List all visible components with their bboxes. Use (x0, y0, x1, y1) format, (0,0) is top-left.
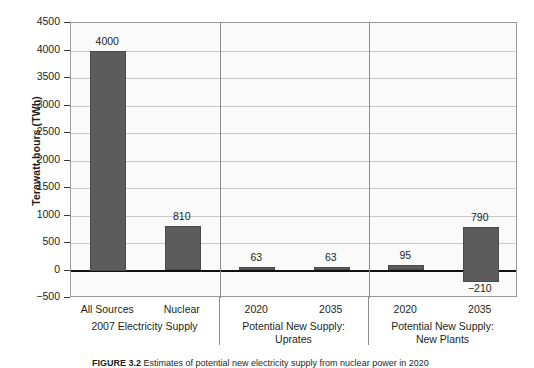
y-tick-label: −500 (18, 290, 60, 302)
bar-value-label: 63 (216, 251, 296, 263)
y-tick-label: 0 (18, 263, 60, 275)
group-label-line: 2007 Electricity Supply (70, 320, 220, 333)
gridline (71, 51, 516, 52)
y-tick-label: 3500 (18, 70, 60, 82)
y-tick-label: 4500 (18, 15, 60, 27)
bar (388, 265, 424, 270)
bar-value-label: 4000 (67, 35, 147, 47)
bar-value-label: 63 (291, 251, 371, 263)
bar (90, 51, 126, 271)
group-label-line: Uprates (219, 333, 369, 346)
figure-caption: FIGURE 3.2 Estimates of potential new el… (92, 357, 512, 368)
x-tick-label: 2035 (430, 303, 530, 315)
y-tick-label: 4000 (18, 43, 60, 55)
group-label: 2007 Electricity Supply (70, 320, 220, 333)
bar-value-label-negative: −210 (440, 282, 520, 294)
bar (239, 267, 275, 270)
bar-value-label: 790 (440, 211, 520, 223)
y-tick-label: 500 (18, 235, 60, 247)
group-divider-tick (219, 297, 220, 345)
group-label: Potential New Supply:Uprates (219, 320, 369, 346)
y-tick-label: 2000 (18, 153, 60, 165)
gridline (71, 188, 516, 189)
group-label-line: Potential New Supply: (219, 320, 369, 333)
group-label-line: New Plants (368, 333, 518, 346)
group-divider-tick (368, 297, 369, 345)
group-label-line: Potential New Supply: (368, 320, 518, 333)
gridline (71, 161, 516, 162)
gridline (71, 106, 516, 107)
figure-container: Terawatt-hours (TWh) 4500400035003000250… (0, 0, 534, 368)
y-tick-label: 1500 (18, 180, 60, 192)
y-tick-label: 2500 (18, 125, 60, 137)
caption-text: Estimates of potential new electricity s… (144, 358, 429, 368)
caption-label: FIGURE 3.2 (92, 358, 141, 368)
y-tick-label: 1000 (18, 208, 60, 220)
gridline (71, 243, 516, 244)
bar-value-label: 810 (142, 210, 222, 222)
bar (314, 267, 350, 270)
zero-line (71, 270, 516, 272)
y-tick-label: 3000 (18, 98, 60, 110)
bar-value-label: 95 (365, 249, 445, 261)
group-label: Potential New Supply:New Plants (368, 320, 518, 346)
gridline (71, 133, 516, 134)
bar (165, 226, 201, 271)
bar (463, 227, 499, 282)
y-tick-mark (64, 297, 70, 298)
gridline (71, 78, 516, 79)
